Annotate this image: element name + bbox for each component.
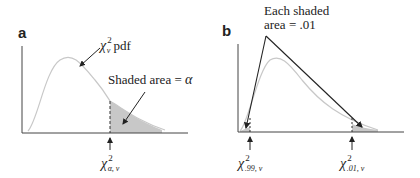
shaded-annotation: Each shaded area = .01 <box>264 4 329 32</box>
shaded-area-label: Shaded area = α <box>108 72 192 88</box>
callout-left-arrow <box>246 36 266 128</box>
pdf-curve <box>240 58 378 131</box>
pdf-label: χ2ν pdf <box>100 36 131 54</box>
pdf-label-arrow <box>80 48 100 66</box>
critical-value-label: χ2α, ν <box>101 154 119 172</box>
left-critical-label: χ2.99, ν <box>238 154 262 172</box>
panel-a-letter: a <box>18 24 26 41</box>
panel-b: b Each shaded area = .01 χ2.99, ν χ2.01,… <box>210 0 420 178</box>
pdf-curve <box>28 57 165 131</box>
panel-a-plot <box>0 0 210 178</box>
right-critical-label: χ2.01, ν <box>340 154 364 172</box>
callout-right-arrow <box>266 36 362 127</box>
panel-a: a χ2ν pdf Shaded area = α χ2α, ν <box>0 0 210 178</box>
panel-b-letter: b <box>222 22 231 39</box>
